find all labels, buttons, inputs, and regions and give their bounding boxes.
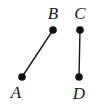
point-group [18,26,84,81]
point-label-a: A [11,84,21,101]
segment-cd [79,30,80,77]
point-c [76,26,84,34]
segment-ab [22,30,53,77]
segment-group [22,30,80,77]
point-label-b: B [48,5,58,22]
point-d [75,73,83,81]
point-label-d: D [73,85,85,102]
geometry-figure: A B C D [0,0,95,105]
point-a [18,73,26,81]
point-label-c: C [74,5,85,22]
point-b [49,26,57,34]
